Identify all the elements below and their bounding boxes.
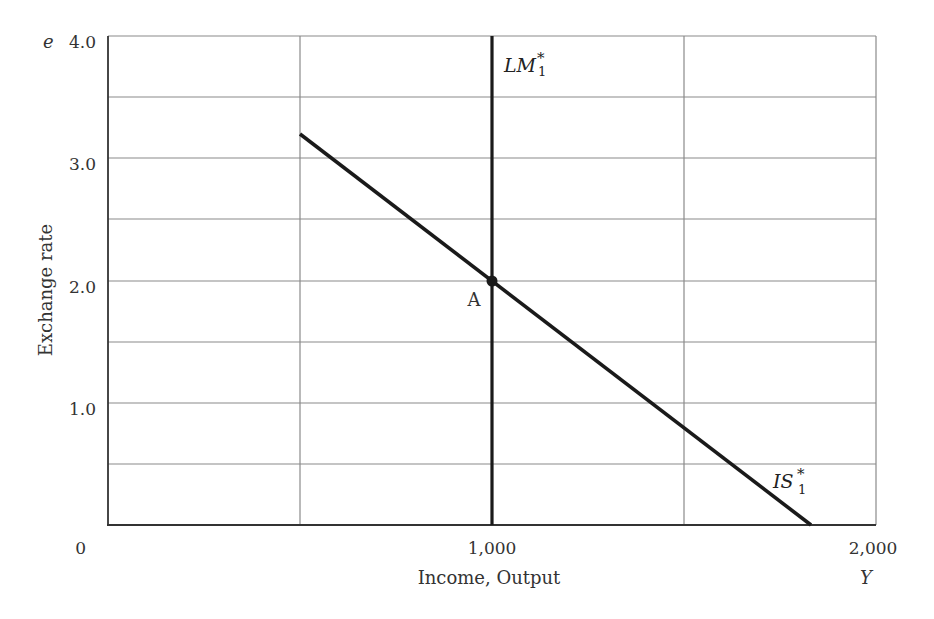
lm-label-main: LM (503, 54, 537, 76)
is-label-sup: * (797, 465, 805, 483)
x-symbol: Y (860, 567, 874, 588)
y-symbol: e (43, 31, 54, 52)
point-a-label: A (467, 289, 482, 310)
is-lm-chart: 4.0 3.0 2.0 1.0 e Exchange rate 0 1,000 … (0, 0, 934, 619)
equilibrium-point (487, 276, 498, 287)
y-tick-2: 2.0 (69, 277, 96, 297)
x-tick-0: 0 (75, 538, 86, 558)
y-tick-1: 1.0 (69, 399, 96, 419)
x-tick-1000: 1,000 (468, 538, 517, 558)
lm-curve-label: LM * 1 (503, 49, 546, 79)
y-axis-title: Exchange rate (35, 224, 56, 356)
y-tick-3: 3.0 (69, 154, 96, 174)
is-curve-label: IS * 1 (772, 465, 806, 497)
x-tick-2000: 2,000 (849, 538, 898, 558)
is-curve (300, 134, 811, 525)
is-label-sub: 1 (798, 482, 806, 497)
x-axis-title: Income, Output (418, 567, 561, 588)
y-tick-4: 4.0 (69, 32, 96, 52)
lm-label-sub: 1 (538, 64, 546, 79)
is-label-main: IS (772, 470, 794, 492)
